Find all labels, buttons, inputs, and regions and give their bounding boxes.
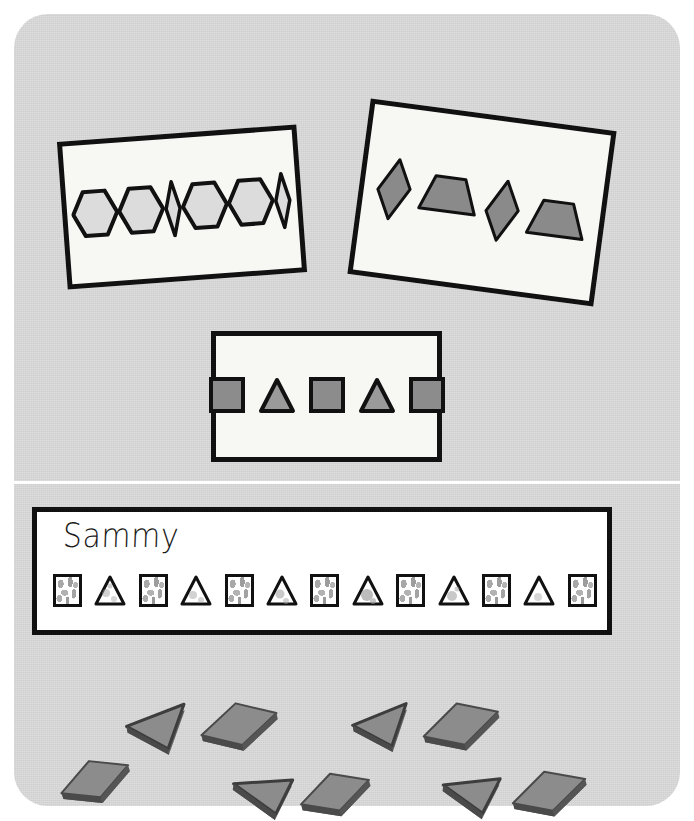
square-icon	[53, 574, 82, 607]
triangle-icon	[179, 573, 213, 607]
square-icon	[396, 574, 425, 607]
rhombus-icon	[371, 155, 416, 227]
pattern-card-hexagon-rhombus[interactable]	[57, 124, 307, 289]
card-sqtri-shape-row	[202, 376, 452, 418]
hexagon-icon	[179, 179, 231, 232]
square-icon	[568, 574, 597, 607]
triangle-icon	[93, 573, 127, 607]
square-icon	[139, 574, 168, 607]
trapezoid-icon	[415, 170, 482, 222]
loose-block-triangle[interactable]	[435, 767, 508, 821]
triangle-icon	[358, 376, 396, 418]
hexagon-icon	[115, 183, 167, 236]
square-icon	[310, 574, 339, 607]
student-worksheet[interactable]: Sammy	[32, 507, 612, 635]
scene-stage: Sammy	[0, 0, 694, 821]
square-icon	[308, 376, 346, 418]
loose-block-triangle[interactable]	[346, 701, 421, 766]
student-name-label: Sammy	[62, 516, 180, 555]
triangle-icon	[258, 376, 296, 418]
triangle-icon	[437, 573, 471, 607]
card-rhomb-shape-row	[368, 147, 597, 257]
square-icon	[408, 376, 446, 418]
worksheet-pattern-row	[53, 564, 597, 616]
triangle-icon	[351, 573, 385, 607]
loose-block-triangle[interactable]	[224, 763, 301, 821]
square-icon	[225, 574, 254, 607]
triangle-icon	[265, 573, 299, 607]
card-hex-shape-row	[70, 171, 294, 243]
square-icon	[482, 574, 511, 607]
square-icon	[208, 376, 246, 418]
loose-block-triangle[interactable]	[120, 701, 197, 768]
pattern-card-square-triangle[interactable]	[211, 331, 442, 462]
hexagon-icon	[225, 175, 277, 228]
trapezoid-icon	[523, 195, 590, 247]
rhombus-icon	[480, 176, 525, 248]
hexagon-icon	[69, 187, 121, 240]
triangle-icon	[522, 573, 556, 607]
pattern-card-rhombus-trapezoid[interactable]	[347, 98, 616, 306]
slim-rhombus-icon	[271, 171, 295, 228]
